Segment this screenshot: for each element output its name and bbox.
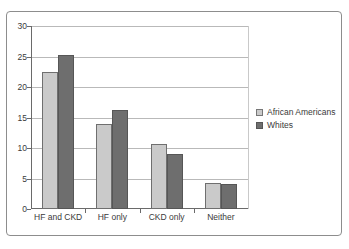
x-axis-tick-mark (140, 209, 141, 213)
y-axis-tick-mark (27, 26, 31, 27)
legend-swatch-icon (256, 122, 263, 129)
legend-item: African Americans (256, 107, 344, 118)
y-axis-tick-label: 0 (5, 205, 27, 214)
y-axis-tick-mark (27, 118, 31, 119)
x-axis-tick-mark (85, 209, 86, 213)
bar (151, 144, 167, 209)
legend-item-label: Whites (267, 121, 293, 130)
y-axis-tick-label: 20 (5, 83, 27, 92)
y-axis-tick-mark (27, 57, 31, 58)
bar (96, 124, 112, 209)
y-axis-tick-label: 25 (5, 53, 27, 62)
bar (205, 183, 221, 209)
y-axis-tick-mark (27, 179, 31, 180)
y-axis-tick-label: 5 (5, 175, 27, 184)
y-axis-tick-label: 15 (5, 114, 27, 123)
x-axis-tick-label: CKD only (140, 212, 194, 222)
plot-right-edge (248, 26, 249, 209)
gridline (32, 26, 249, 27)
x-axis: HF and CKDHF onlyCKD onlyNeither (31, 212, 248, 228)
legend-item-label: African Americans (267, 108, 336, 117)
y-axis-tick-mark (27, 209, 31, 210)
bar (221, 184, 237, 209)
bar (58, 55, 74, 209)
x-axis-tick-label: HF and CKD (31, 212, 85, 222)
bar (112, 110, 128, 209)
x-axis-tick-label: Neither (194, 212, 248, 222)
x-axis-tick-label: HF only (85, 212, 139, 222)
bar (42, 72, 58, 209)
y-axis: 051015202530 (0, 26, 27, 209)
y-axis-tick-label: 30 (5, 22, 27, 31)
y-axis-tick-mark (27, 87, 31, 88)
y-axis-tick-label: 10 (5, 144, 27, 153)
legend-swatch-icon (256, 109, 263, 116)
x-axis-tick-mark (194, 209, 195, 213)
bar (167, 154, 183, 209)
legend-item: Whites (256, 120, 344, 131)
y-axis-tick-mark (27, 148, 31, 149)
chart-legend: African AmericansWhites (256, 107, 344, 133)
bar-chart-figure: 051015202530 HF and CKDHF onlyCKD onlyNe… (0, 0, 349, 249)
